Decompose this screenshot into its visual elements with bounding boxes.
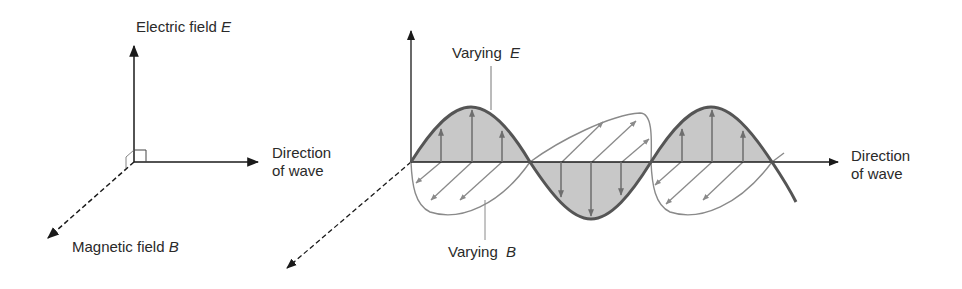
electric-field-label: Electric field E [136, 18, 231, 36]
magnetic-field-label: Magnetic field B [72, 238, 179, 256]
b-loop-2 [530, 113, 651, 162]
varying-b-text: Varying [448, 243, 498, 260]
b-loop-3 [651, 162, 772, 215]
direction-line1: Direction [272, 144, 331, 162]
direction-line1-right: Direction [851, 147, 910, 165]
magnetic-field-symbol: B [169, 238, 179, 255]
magnetic-field-arrow [48, 162, 134, 238]
magnetic-field-text: Magnetic field [72, 238, 165, 255]
b-loop-1 [411, 162, 530, 215]
electric-field-text: Electric field [136, 18, 217, 35]
direction-label-right: Direction of wave [851, 147, 910, 183]
varying-e-symbol: E [510, 44, 520, 61]
left-axes [48, 46, 258, 238]
right-angle-mark [134, 150, 146, 162]
varying-b-label: Varying B [448, 243, 516, 261]
varying-b-symbol: B [506, 243, 516, 260]
varying-e-label: Varying E [452, 44, 520, 62]
electric-field-symbol: E [221, 18, 231, 35]
b-tail [772, 153, 784, 162]
direction-line2-right: of wave [851, 165, 910, 183]
varying-e-text: Varying [452, 44, 502, 61]
right-angle-mark-b [126, 150, 134, 168]
direction-line2: of wave [272, 162, 331, 180]
direction-label-left: Direction of wave [272, 144, 331, 180]
